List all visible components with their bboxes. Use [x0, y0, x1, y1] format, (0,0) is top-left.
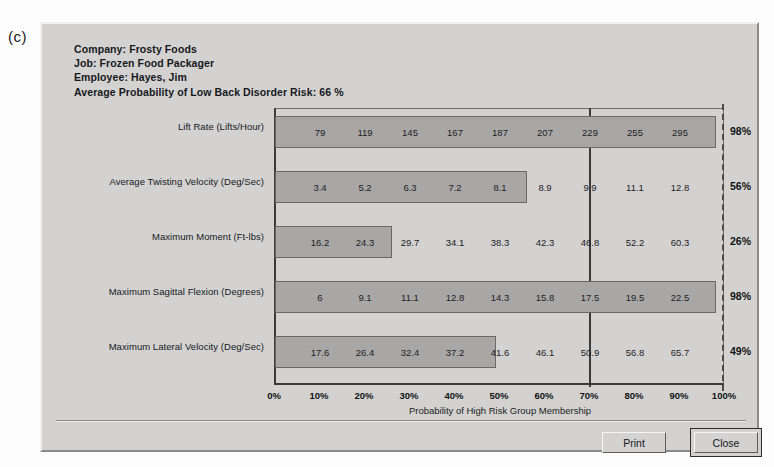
chart-scale-markers: 3.45.26.37.28.18.99.911.112.8: [275, 171, 727, 203]
x-axis-tick: 90%: [669, 390, 688, 401]
chart-scale-value: 17.6: [311, 347, 330, 358]
chart-scale-value: 167: [447, 127, 463, 138]
chart-scale-value: 5.2: [358, 182, 371, 193]
chart-row: Average Twisting Velocity (Deg/Sec)3.45.…: [62, 165, 742, 211]
chart-row-percent: 56%: [730, 180, 751, 192]
report-dialog: Company: Frosty Foods Job: Frozen Food P…: [40, 22, 759, 452]
chart-scale-value: 46.1: [536, 347, 555, 358]
chart-row: Maximum Lateral Velocity (Deg/Sec)17.626…: [62, 330, 742, 376]
chart-scale-value: 24.3: [356, 237, 375, 248]
chart-scale-value: 8.9: [538, 182, 551, 193]
chart-scale-value: 22.5: [671, 292, 690, 303]
chart-row-percent: 98%: [730, 125, 751, 137]
figure-label: (c): [8, 28, 27, 45]
close-button-focus-ring: Close: [690, 428, 762, 457]
chart-scale-value: 37.2: [446, 347, 465, 358]
chart-scale-value: 8.1: [493, 182, 506, 193]
chart-scale-value: 32.4: [401, 347, 420, 358]
chart-scale-markers: 17.626.432.437.241.646.150.956.865.7: [275, 336, 727, 368]
chart-row: Maximum Moment (Ft-lbs)16.224.329.734.13…: [62, 220, 742, 266]
chart-row-label: Lift Rate (Lifts/Hour): [178, 121, 264, 132]
chart-scale-value: 15.8: [536, 292, 555, 303]
chart-scale-value: 119: [357, 127, 372, 138]
chart-row: Maximum Sagittal Flexion (Degrees)69.111…: [62, 275, 742, 321]
header-employee: Employee: Hayes, Jim: [74, 70, 344, 84]
chart-scale-value: 56.8: [626, 347, 645, 358]
chart-scale-value: 9.1: [358, 292, 371, 303]
chart-scale-value: 11.1: [626, 182, 644, 193]
screenshot-root: (c) Company: Frosty Foods Job: Frozen Fo…: [0, 0, 774, 467]
x-axis-tick: 0%: [267, 390, 281, 401]
x-axis-tick: 30%: [399, 390, 418, 401]
report-header: Company: Frosty Foods Job: Frozen Food P…: [74, 42, 344, 99]
chart-scale-value: 38.3: [491, 237, 510, 248]
chart-scale-value: 11.1: [401, 292, 419, 303]
chart-scale-value: 52.2: [626, 237, 645, 248]
chart-scale-value: 9.9: [583, 182, 596, 193]
chart-scale-value: 34.1: [446, 237, 465, 248]
chart-scale-value: 65.7: [671, 347, 690, 358]
print-button[interactable]: Print: [602, 432, 666, 453]
chart-row-label: Maximum Lateral Velocity (Deg/Sec): [109, 341, 264, 352]
chart-scale-markers: 16.224.329.734.138.342.346.852.260.3: [275, 226, 727, 258]
risk-chart: Lift Rate (Lifts/Hour)791191451671872072…: [62, 100, 742, 420]
chart-scale-value: 6.3: [403, 182, 416, 193]
chart-scale-value: 3.4: [313, 182, 326, 193]
chart-row-percent: 98%: [730, 290, 751, 302]
chart-scale-value: 26.4: [356, 347, 375, 358]
chart-scale-value: 46.8: [581, 237, 600, 248]
chart-scale-value: 50.9: [581, 347, 600, 358]
chart-scale-value: 187: [492, 127, 508, 138]
chart-scale-value: 14.3: [491, 292, 510, 303]
chart-row-label: Maximum Moment (Ft-lbs): [152, 231, 264, 242]
chart-scale-value: 295: [672, 127, 688, 138]
dialog-inner-panel: Company: Frosty Foods Job: Frozen Food P…: [46, 28, 753, 446]
x-axis-ticks: 0%10%20%30%40%50%60%70%80%90%100%: [274, 390, 726, 404]
chart-scale-value: 19.5: [626, 292, 645, 303]
x-axis-tick: 40%: [444, 390, 463, 401]
button-bar-separator: [56, 420, 746, 422]
chart-scale-value: 12.8: [446, 292, 465, 303]
chart-scale-markers: 69.111.112.814.315.817.519.522.5: [275, 281, 727, 313]
chart-row-percent: 49%: [730, 345, 751, 357]
chart-row: Lift Rate (Lifts/Hour)791191451671872072…: [62, 110, 742, 156]
chart-scale-value: 42.3: [536, 237, 555, 248]
x-axis-tick: 20%: [354, 390, 373, 401]
x-axis-tick: 50%: [489, 390, 508, 401]
header-average-risk: Average Probability of Low Back Disorder…: [74, 85, 344, 99]
chart-row-percent: 26%: [730, 235, 751, 247]
chart-scale-markers: 79119145167187207229255295: [275, 116, 727, 148]
chart-scale-value: 60.3: [671, 237, 690, 248]
x-axis-tick: 70%: [579, 390, 598, 401]
chart-row-label: Maximum Sagittal Flexion (Degrees): [109, 286, 264, 297]
chart-scale-value: 145: [402, 127, 418, 138]
chart-scale-value: 255: [627, 127, 643, 138]
chart-scale-value: 207: [537, 127, 553, 138]
chart-scale-value: 12.8: [671, 182, 690, 193]
chart-scale-value: 229: [582, 127, 598, 138]
chart-scale-value: 17.5: [581, 292, 600, 303]
close-button[interactable]: Close: [694, 432, 758, 453]
chart-scale-value: 16.2: [311, 237, 330, 248]
chart-scale-value: 6: [317, 292, 322, 303]
chart-scale-value: 41.6: [491, 347, 510, 358]
chart-scale-value: 79: [315, 127, 326, 138]
chart-row-label: Average Twisting Velocity (Deg/Sec): [109, 176, 264, 187]
header-company: Company: Frosty Foods: [74, 42, 344, 56]
x-axis-tick: 10%: [309, 390, 328, 401]
header-job: Job: Frozen Food Packager: [74, 56, 344, 70]
chart-scale-value: 29.7: [401, 237, 420, 248]
x-axis-tick: 80%: [624, 390, 643, 401]
chart-scale-value: 7.2: [448, 182, 461, 193]
x-axis-tick: 60%: [534, 390, 553, 401]
x-axis-title: Probability of High Risk Group Membershi…: [274, 405, 726, 416]
x-axis-tick: 100%: [712, 390, 736, 401]
